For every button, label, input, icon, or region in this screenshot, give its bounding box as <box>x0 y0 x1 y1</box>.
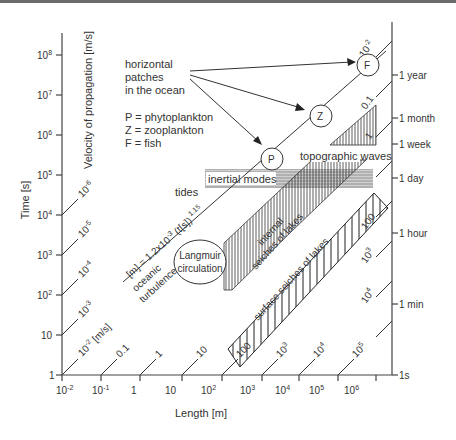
svg-text:10-5: 10-5 <box>75 219 96 240</box>
right-axis-labels: 1s 1 min 1 hour 1 day 1 week 1 month 1 y… <box>399 70 435 381</box>
patches-label-3: in the ocean <box>125 84 185 96</box>
svg-text:10: 10 <box>194 343 210 359</box>
topographic-waves-region <box>330 105 376 145</box>
time-length-diagram: 10-2 10-1 1 10 102 103 104 105 106 Lengt… <box>0 0 456 440</box>
svg-text:0.1: 0.1 <box>114 341 132 359</box>
velocity-ticks-left <box>62 199 78 375</box>
svg-text:Z: Z <box>317 111 323 122</box>
svg-text:106: 106 <box>37 129 52 141</box>
svg-text:F: F <box>364 60 370 71</box>
svg-text:1 week: 1 week <box>399 139 432 150</box>
axes <box>62 22 392 375</box>
svg-text:10: 10 <box>41 330 53 341</box>
x-axis-title: Length [m] <box>175 407 227 419</box>
patches-label-1: horizontal <box>125 58 173 70</box>
svg-text:1: 1 <box>131 385 137 396</box>
svg-text:104: 104 <box>275 384 290 396</box>
x-axis-ticks <box>62 375 376 381</box>
svg-text:102: 102 <box>201 384 216 396</box>
right-axis-ticks <box>392 75 398 375</box>
svg-text:105: 105 <box>349 340 368 359</box>
y-axis-ticks <box>56 55 62 375</box>
svg-text:104: 104 <box>37 209 52 221</box>
svg-text:1: 1 <box>153 347 165 359</box>
svg-text:102: 102 <box>37 289 52 301</box>
svg-text:1: 1 <box>49 370 55 381</box>
svg-text:1 min: 1 min <box>399 299 423 310</box>
svg-text:108: 108 <box>37 49 52 61</box>
circle-f: F <box>357 54 379 76</box>
svg-text:10-2: 10-2 <box>56 384 73 396</box>
svg-text:105: 105 <box>37 169 52 181</box>
tides-label: tides <box>175 186 199 198</box>
svg-text:107: 107 <box>37 89 52 101</box>
svg-text:10: 10 <box>165 385 177 396</box>
circle-z: Z <box>310 105 332 127</box>
x-axis-labels: 10-2 10-1 1 10 102 103 104 105 106 <box>56 384 359 396</box>
circle-p: P <box>261 148 283 170</box>
svg-text:1s: 1s <box>399 370 410 381</box>
svg-text:103: 103 <box>358 246 377 265</box>
topographic-waves-label: topographic waves <box>300 150 392 162</box>
svg-text:103: 103 <box>273 340 292 359</box>
svg-text:1 year: 1 year <box>399 70 427 81</box>
velocity-ticks-right <box>376 41 392 337</box>
patches-arrows <box>190 58 356 145</box>
svg-text:1 day: 1 day <box>399 173 423 184</box>
svg-text:10-1: 10-1 <box>92 384 109 396</box>
velocity-title: Velocity of propagation [m/s] <box>82 31 94 169</box>
svg-text:106: 106 <box>344 384 359 396</box>
inertial-modes-label: inertial modes <box>208 173 277 185</box>
legend-f: F = fish <box>125 137 161 149</box>
langmuir-circle <box>174 240 226 284</box>
y-axis-labels: 108 107 106 105 104 103 102 10 1 <box>37 49 55 381</box>
svg-text:10-6: 10-6 <box>75 179 96 200</box>
svg-text:1 hour: 1 hour <box>399 228 428 239</box>
svg-text:10-4: 10-4 <box>75 259 96 280</box>
svg-text:1 month: 1 month <box>399 113 435 124</box>
y-axis-title: Time [s] <box>19 181 31 220</box>
velocity-ticks-bottom <box>101 359 354 375</box>
svg-text:104: 104 <box>358 286 377 305</box>
langmuir-label-1: Langmuir <box>179 250 221 261</box>
svg-text:104: 104 <box>310 340 329 359</box>
velocity-labels-left: 10-2 [m/s] 10-3 10-4 10-5 10-6 <box>75 179 113 359</box>
svg-text:10-2 [m/s]: 10-2 [m/s] <box>75 320 113 358</box>
legend-p: P = phytoplankton <box>125 111 213 123</box>
svg-text:P: P <box>268 154 275 165</box>
svg-text:103: 103 <box>37 249 52 261</box>
svg-text:10-3: 10-3 <box>75 299 96 320</box>
patches-label-2: patches <box>125 71 164 83</box>
langmuir-label-2: circulation <box>177 263 222 274</box>
legend-z: Z = zooplankton <box>125 124 204 136</box>
svg-text:103: 103 <box>240 384 255 396</box>
svg-text:105: 105 <box>309 384 324 396</box>
